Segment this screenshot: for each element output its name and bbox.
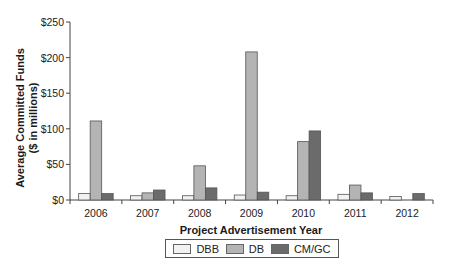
bars — [79, 52, 425, 200]
legend-swatch — [173, 244, 191, 254]
x-tick-label: 2012 — [395, 207, 419, 219]
y-tick-label: $100 — [41, 123, 65, 135]
bar-dbb-2007 — [131, 196, 143, 200]
y-axis-title-line: Average Committed Funds — [14, 48, 26, 188]
y-axis-title: Average Committed Funds($ in millions) — [14, 48, 39, 188]
legend-swatch — [271, 244, 289, 254]
legend-item-dbb: DBB — [173, 243, 219, 255]
bar-dbb-2009 — [234, 195, 246, 200]
legend-label: DBB — [196, 243, 219, 255]
y-tick-label: $150 — [41, 87, 65, 99]
y-tick-label: $0 — [52, 194, 64, 206]
y-tick-label: $50 — [46, 158, 64, 170]
x-tick-label: 2010 — [292, 207, 316, 219]
bar-dbb-2008 — [182, 196, 194, 200]
y-axis: $0$50$100$150$200$250 — [41, 16, 70, 206]
bar-dbb-2011 — [338, 194, 350, 200]
x-tick-label: 2011 — [344, 207, 367, 219]
legend-swatch — [226, 244, 244, 254]
bar-db-2011 — [349, 185, 361, 200]
bar-db-2008 — [194, 166, 206, 200]
y-axis-title-line: ($ in millions) — [27, 82, 39, 153]
bar-cm-gc-2008 — [205, 188, 217, 200]
bar-cm-gc-2010 — [309, 131, 321, 200]
bar-dbb-2006 — [79, 194, 91, 200]
legend: DBBDBCM/GC — [165, 239, 339, 258]
bar-db-2009 — [246, 52, 258, 200]
legend-label: CM/GC — [294, 243, 331, 255]
legend-item-db: DB — [226, 243, 264, 255]
bar-db-2006 — [90, 121, 102, 200]
x-axis: 2006200720082009201020112012 — [70, 200, 433, 219]
x-tick-label: 2008 — [188, 207, 212, 219]
bar-dbb-2010 — [286, 196, 298, 200]
bar-cm-gc-2011 — [361, 193, 373, 200]
bar-cm-gc-2012 — [413, 194, 425, 200]
y-tick-label: $200 — [41, 52, 65, 64]
bar-cm-gc-2009 — [257, 192, 269, 200]
x-tick-label: 2007 — [136, 207, 160, 219]
y-tick-label: $250 — [41, 16, 65, 28]
legend-label: DB — [249, 243, 264, 255]
bar-chart: Average Committed Funds($ in millions) $… — [0, 0, 450, 275]
x-axis-title: Project Advertisement Year — [180, 224, 323, 236]
bar-db-2007 — [142, 193, 154, 200]
legend-item-cm-gc: CM/GC — [271, 243, 331, 255]
x-tick-label: 2006 — [84, 207, 108, 219]
bar-db-2010 — [298, 142, 310, 200]
bar-cm-gc-2007 — [154, 190, 166, 200]
bar-dbb-2012 — [390, 196, 402, 200]
bar-cm-gc-2006 — [102, 194, 114, 200]
x-tick-label: 2009 — [240, 207, 264, 219]
